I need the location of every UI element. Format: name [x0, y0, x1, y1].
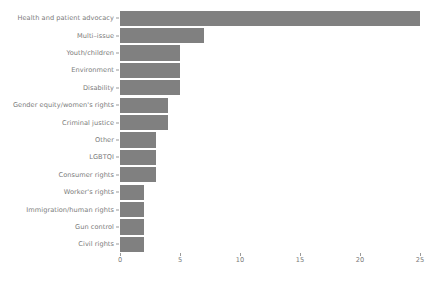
- category-label: Consumer rights: [59, 171, 114, 179]
- y-axis-tick-mark: [116, 226, 119, 227]
- category-label: LGBTQI: [89, 153, 114, 161]
- y-axis-tick-mark: [116, 122, 119, 123]
- y-axis-tick-mark: [116, 139, 119, 140]
- bar[interactable]: [120, 63, 180, 78]
- x-axis-tick-label: 10: [236, 256, 244, 264]
- bar-row: Youth/children: [0, 44, 434, 61]
- x-axis-tick-label: 5: [178, 256, 182, 264]
- y-axis-tick-mark: [116, 174, 119, 175]
- bar[interactable]: [120, 202, 144, 217]
- bar[interactable]: [120, 150, 156, 165]
- x-axis: 0510152025: [0, 253, 434, 275]
- bar-row: Multi–issue: [0, 27, 434, 44]
- x-axis-tick-label: 20: [356, 256, 364, 264]
- y-axis-tick-mark: [116, 70, 119, 71]
- category-label: Gun control: [75, 223, 114, 231]
- bar-row: Disability: [0, 79, 434, 96]
- category-label: Immigration/human rights: [26, 206, 114, 214]
- bar[interactable]: [120, 115, 168, 130]
- bar-row: Health and patient advocacy: [0, 10, 434, 27]
- bar-row: Consumer rights: [0, 166, 434, 183]
- x-axis-tick-label: 15: [296, 256, 304, 264]
- y-axis-tick-mark: [116, 244, 119, 245]
- bar-chart: Health and patient advocacyMulti–issueYo…: [0, 0, 434, 281]
- category-label: Worker's rights: [64, 188, 114, 196]
- bar[interactable]: [120, 167, 156, 182]
- category-label: Youth/children: [66, 49, 114, 57]
- bar[interactable]: [120, 237, 144, 252]
- bar[interactable]: [120, 45, 180, 60]
- category-label: Multi–issue: [77, 32, 114, 40]
- bar-row: Immigration/human rights: [0, 201, 434, 218]
- category-label: Environment: [71, 66, 114, 74]
- bar[interactable]: [120, 132, 156, 147]
- category-label: Gender equity/women's rights: [13, 101, 114, 109]
- y-axis-tick-mark: [116, 209, 119, 210]
- category-label: Other: [95, 136, 114, 144]
- bar-row: Civil rights: [0, 236, 434, 253]
- y-axis-tick-mark: [116, 192, 119, 193]
- bar[interactable]: [120, 219, 144, 234]
- category-label: Criminal justice: [62, 119, 114, 127]
- plot-area: Health and patient advocacyMulti–issueYo…: [0, 0, 434, 281]
- y-axis-tick-mark: [116, 35, 119, 36]
- bar[interactable]: [120, 80, 180, 95]
- y-axis-tick-mark: [116, 18, 119, 19]
- bar-row: Gun control: [0, 218, 434, 235]
- bar-row: Criminal justice: [0, 114, 434, 131]
- bar[interactable]: [120, 98, 168, 113]
- bar[interactable]: [120, 28, 204, 43]
- bar-row: LGBTQI: [0, 149, 434, 166]
- bar-row: Worker's rights: [0, 184, 434, 201]
- y-axis-tick-mark: [116, 105, 119, 106]
- category-label: Health and patient advocacy: [17, 14, 114, 22]
- category-label: Disability: [83, 84, 114, 92]
- y-axis-tick-mark: [116, 52, 119, 53]
- bar[interactable]: [120, 11, 420, 26]
- y-axis-tick-mark: [116, 87, 119, 88]
- x-axis-tick-label: 0: [118, 256, 122, 264]
- bar-row: Other: [0, 131, 434, 148]
- y-axis-tick-mark: [116, 157, 119, 158]
- x-axis-tick-label: 25: [416, 256, 424, 264]
- category-label: Civil rights: [78, 240, 114, 248]
- bar[interactable]: [120, 185, 144, 200]
- bar-row: Gender equity/women's rights: [0, 97, 434, 114]
- bar-row: Environment: [0, 62, 434, 79]
